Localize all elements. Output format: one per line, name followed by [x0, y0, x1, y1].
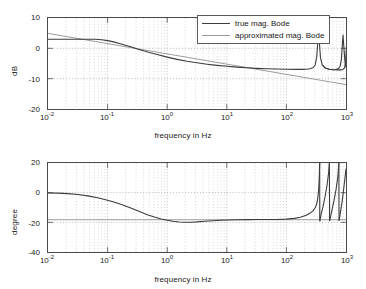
- phase-tick-marks: [48, 163, 346, 252]
- phase-wrap-branch-1: [320, 163, 330, 221]
- phase-axes: [47, 162, 347, 253]
- magnitude-ytick-10: 10: [14, 13, 40, 22]
- magnitude-ytick-0: 0: [14, 44, 40, 53]
- line-swatch-icon: [202, 23, 230, 24]
- magnitude-xtick-1e-1: 10-1: [90, 113, 124, 122]
- phase-wrap-drop-edges: [320, 163, 339, 221]
- magnitude-x-axis-label: frequency in Hz: [0, 131, 366, 140]
- legend-item-true-mag: true mag. Bode: [202, 19, 324, 28]
- phase-plot-svg: [48, 163, 346, 252]
- phase-ytick-0: 0: [14, 188, 40, 197]
- phase-panel: degree 20 0 -20 -40 10-2 10-1 100 101 10…: [0, 145, 366, 289]
- phase-xtick-1e3: 103: [330, 256, 364, 265]
- legend-label-true-mag: true mag. Bode: [235, 19, 290, 28]
- phase-decade-gridlines: [108, 163, 287, 252]
- phase-xtick-1e1: 101: [210, 256, 244, 265]
- legend-label-approx-mag: approximated mag. Bode: [235, 31, 324, 40]
- magnitude-xtick-1e-2: 10-2: [30, 113, 64, 122]
- phase-x-axis-label: frequency in Hz: [0, 275, 366, 284]
- magnitude-xtick-1e0: 100: [150, 113, 184, 122]
- magnitude-xtick-1e2: 102: [270, 113, 304, 122]
- phase-xtick-1e0: 100: [150, 256, 184, 265]
- phase-ytick-neg20: -20: [14, 219, 40, 228]
- magnitude-panel: dB 10 0 -10 -20 10-2 10-1 100 101 102 10…: [0, 0, 366, 145]
- phase-wrap-branch-2: [330, 163, 339, 221]
- phase-xtick-1e2: 102: [270, 256, 304, 265]
- line-swatch-icon: [202, 35, 230, 36]
- magnitude-ytick-neg10: -10: [14, 75, 40, 84]
- phase-xtick-1e-2: 10-2: [30, 256, 64, 265]
- bode-plot-figure: dB 10 0 -10 -20 10-2 10-1 100 101 102 10…: [0, 0, 366, 289]
- magnitude-xtick-1e3: 103: [330, 113, 364, 122]
- magnitude-horizontal-gridlines: [48, 48, 346, 78]
- phase-ytick-20: 20: [14, 158, 40, 167]
- legend-item-approx-mag: approximated mag. Bode: [202, 31, 324, 40]
- phase-wrap-branch-3: [339, 169, 346, 221]
- phase-xtick-1e-1: 10-1: [90, 256, 124, 265]
- magnitude-legend: true mag. Bode approximated mag. Bode: [197, 15, 330, 44]
- magnitude-xtick-1e1: 101: [210, 113, 244, 122]
- true-phase-curve: [48, 163, 320, 222]
